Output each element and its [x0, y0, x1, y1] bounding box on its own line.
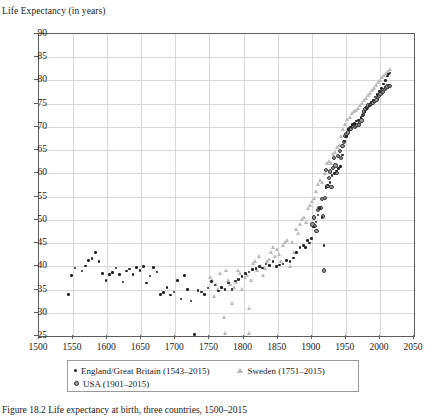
gridline-horizontal [39, 197, 414, 198]
data-point-usa [323, 196, 327, 200]
gridline-vertical [107, 34, 108, 336]
data-point-swe [249, 278, 253, 282]
data-point-eng [380, 87, 383, 90]
y-axis-title: Life Expectancy (in years) [2, 6, 106, 16]
data-point-eng [275, 265, 278, 268]
y-axis-tick-label: 45 [38, 237, 48, 247]
data-point-swe [341, 127, 345, 131]
x-axis-tick-mark [140, 335, 141, 339]
x-axis-tick-mark [208, 335, 209, 339]
data-point-eng [295, 251, 298, 254]
data-point-eng [310, 237, 313, 240]
filled-dot-icon [74, 369, 77, 372]
data-point-eng [389, 72, 392, 75]
data-point-swe [275, 247, 279, 251]
data-point-eng [128, 268, 131, 271]
data-point-eng [118, 273, 121, 276]
data-point-eng [323, 244, 326, 247]
data-point-eng [278, 264, 281, 267]
data-point-eng [345, 135, 348, 138]
data-point-eng [166, 286, 169, 289]
data-point-eng [70, 274, 73, 277]
legend-label-england: England/Great Britain (1543–2015) [81, 366, 209, 376]
data-point-swe [288, 264, 292, 268]
data-point-eng [67, 293, 70, 296]
data-point-eng [312, 226, 315, 229]
legend-item-england: England/Great Britain (1543–2015) [74, 366, 209, 376]
x-axis-tick-label: 1550 [63, 342, 82, 352]
legend-label-sweden: Sweden (1751–2015) [247, 366, 324, 376]
data-point-eng [299, 246, 302, 249]
data-point-usa [388, 84, 392, 88]
data-point-eng [169, 294, 172, 297]
y-axis-tick-label: 80 [38, 74, 48, 84]
gridline-horizontal [39, 173, 414, 174]
data-point-eng [91, 257, 94, 260]
data-point-swe [223, 331, 227, 335]
data-point-swe [222, 315, 226, 319]
x-axis-tick-label: 1800 [233, 342, 252, 352]
data-point-swe [224, 268, 228, 272]
figure-caption: Figure 18.2 Life expectancy at birth, th… [2, 405, 247, 415]
data-point-eng [339, 165, 342, 168]
data-point-eng [244, 272, 247, 275]
data-point-eng [331, 174, 334, 177]
data-point-swe [218, 271, 222, 275]
x-axis-tick-label: 1900 [301, 342, 320, 352]
legend-row-2: USA (1901–2015) [74, 377, 352, 390]
x-axis-tick-mark [243, 335, 244, 339]
data-point-swe [294, 227, 298, 231]
gridline-vertical [312, 34, 313, 336]
gridline-vertical [209, 34, 210, 336]
x-axis-tick-label: 1600 [97, 342, 116, 352]
gridline-horizontal [39, 243, 414, 244]
data-point-eng [255, 267, 258, 270]
data-point-eng [210, 280, 213, 283]
data-point-swe [212, 294, 216, 298]
data-point-usa [322, 268, 326, 272]
data-point-usa [338, 149, 342, 153]
ringed-circle-icon [74, 381, 79, 386]
x-axis-tick-mark [413, 335, 414, 339]
data-point-eng [159, 293, 162, 296]
data-point-eng [282, 263, 285, 266]
data-point-eng [122, 281, 125, 284]
data-point-eng [111, 271, 114, 274]
data-point-eng [360, 116, 363, 119]
gridline-vertical [346, 34, 347, 336]
data-point-swe [257, 254, 261, 258]
x-axis-tick-label: 1650 [131, 342, 150, 352]
data-point-eng [125, 270, 128, 273]
data-point-eng [217, 290, 220, 293]
data-point-eng [176, 279, 179, 282]
gridline-horizontal [39, 290, 414, 291]
open-triangle-icon [237, 368, 243, 373]
data-point-eng [139, 269, 142, 272]
data-point-swe [261, 273, 265, 277]
data-point-eng [384, 79, 387, 82]
data-point-eng [200, 291, 203, 294]
y-axis-tick-label: 35 [38, 284, 48, 294]
data-point-eng [135, 266, 138, 269]
data-point-eng [220, 286, 223, 289]
data-point-eng [378, 90, 381, 93]
data-point-eng [268, 264, 271, 267]
data-point-swe [247, 331, 251, 335]
data-point-eng [203, 293, 206, 296]
data-point-eng [329, 181, 332, 184]
data-point-eng [142, 265, 145, 268]
data-point-swe [304, 220, 308, 224]
x-axis-tick-mark [72, 335, 73, 339]
data-point-eng [115, 267, 118, 270]
data-point-swe [247, 306, 251, 310]
gridline-horizontal [39, 313, 414, 314]
x-axis-tick-label: 1750 [199, 342, 218, 352]
gridline-vertical [175, 34, 176, 336]
data-point-swe [314, 189, 318, 193]
data-point-swe [238, 271, 242, 275]
gridline-vertical [278, 34, 279, 336]
data-point-swe [296, 231, 300, 235]
gridline-horizontal [39, 220, 414, 221]
data-point-eng [87, 259, 90, 262]
chart-legend: England/Great Britain (1543–2015) Sweden… [67, 360, 359, 392]
